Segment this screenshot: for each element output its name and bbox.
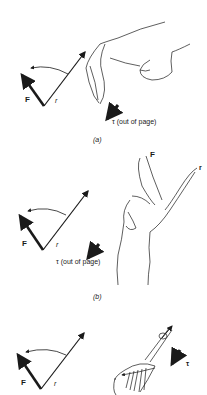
hand-illustration-b [117, 156, 197, 285]
radius-label-c: r [54, 380, 56, 387]
torque-label-a: τ (out of page) [112, 118, 156, 125]
vector-diagram-b [20, 191, 88, 250]
finger-label-r: r [199, 164, 202, 171]
torque-arrow-c [172, 350, 180, 364]
torque-arrow-a [107, 105, 118, 119]
vector-diagram-a [22, 52, 85, 106]
torque-arrow-b [88, 244, 99, 258]
caption-b: (b) [93, 293, 102, 300]
torque-label-c: τ [186, 360, 189, 367]
radius-label-a: r [55, 97, 57, 104]
force-label-b: F [22, 239, 27, 248]
caption-a: (a) [93, 136, 102, 143]
force-label-c: F [21, 378, 26, 387]
vector-diagram-c [18, 333, 84, 389]
screwdriver-illustration [114, 326, 172, 395]
torque-diagram [0, 0, 207, 395]
torque-label-b: τ (out of page) [56, 258, 100, 265]
radius-label-b: r [56, 241, 58, 248]
hand-illustration-a [86, 22, 190, 104]
finger-label-f: F [150, 150, 155, 159]
force-label-a: F [25, 95, 30, 104]
